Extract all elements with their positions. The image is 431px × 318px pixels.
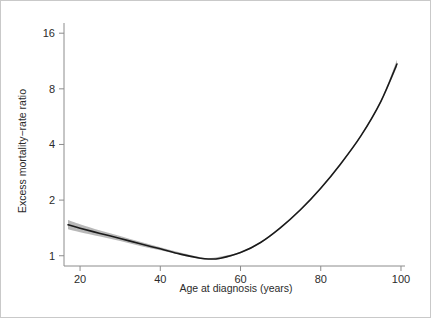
y-tick-label: 1 [49,250,55,262]
y-axis-ticks [59,33,64,256]
data-line [68,64,397,259]
x-tick-label: 100 [392,273,410,285]
y-tick-label: 8 [49,83,55,95]
x-tick-label: 20 [74,273,86,285]
x-tick-label: 40 [154,273,166,285]
y-tick-label: 4 [49,138,55,150]
x-axis-label: Age at diagnosis (years) [179,282,292,294]
x-axis-ticks [80,266,401,271]
figure-frame: 124816 20406080100 Excess mortality−rate… [0,0,431,318]
excess-mortality-rate-ratio-chart: 124816 20406080100 Excess mortality−rate… [1,1,431,318]
confidence-band [68,60,397,260]
y-axis-label: Excess mortality−rate ratio [16,89,28,213]
y-tick-label: 16 [43,27,55,39]
y-axis-tick-labels: 124816 [43,27,55,262]
y-tick-label: 2 [49,194,55,206]
x-tick-label: 80 [315,273,327,285]
chart-figure: 124816 20406080100 Excess mortality−rate… [1,1,430,317]
